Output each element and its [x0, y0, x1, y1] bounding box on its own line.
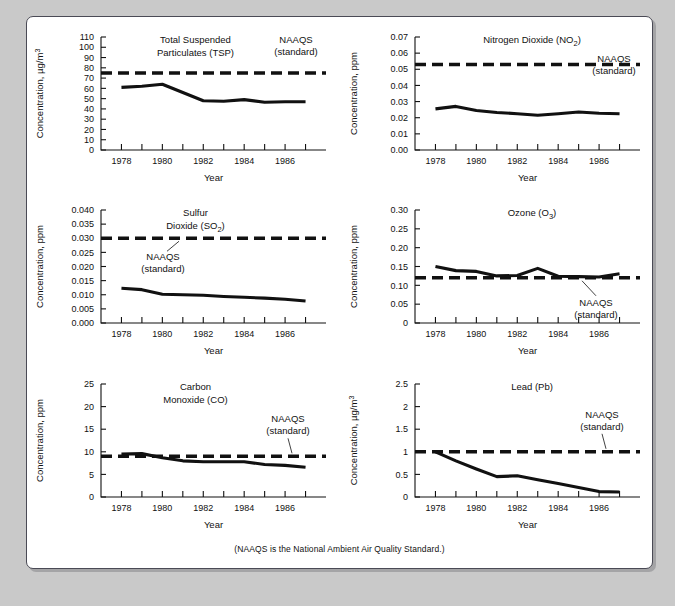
x-axis-title: Year — [204, 519, 223, 530]
data-line-tsp — [121, 84, 305, 102]
x-axis-title: Year — [517, 519, 536, 530]
panel-title: Dioxide (SO2) — [166, 220, 225, 234]
panel-title: Total Suspended — [160, 34, 231, 45]
x-tick-label: 1986 — [275, 156, 295, 166]
x-tick-label: 1982 — [193, 503, 213, 513]
chart-panel-co: 051015202519781980198219841986YearConcen… — [27, 368, 341, 541]
y-tick-label: 1 — [402, 447, 407, 457]
y-tick-label: 0.00 — [390, 145, 408, 155]
y-tick-label: 90 — [84, 53, 94, 63]
y-axis-title: Concentration, µg/m3 — [347, 395, 359, 485]
panel-title: Sulfur — [183, 207, 208, 218]
y-tick-label: 2.5 — [395, 379, 408, 389]
chart-panel-so2: 0.0000.0050.0100.0150.0200.0250.0300.035… — [27, 194, 341, 367]
x-tick-label: 1978 — [425, 329, 445, 339]
x-tick-label: 1984 — [234, 329, 254, 339]
chart-panel-lead: 00.511.522.519781980198219841986YearConc… — [341, 368, 655, 541]
y-axis-title: Concentration, ppm — [348, 52, 359, 135]
naaqs-leader-line — [167, 242, 179, 252]
y-tick-label: 40 — [84, 104, 94, 114]
y-tick-label: 10 — [84, 447, 94, 457]
y-axis-title: Concentration, ppm — [348, 225, 359, 308]
y-tick-label: 2 — [402, 401, 407, 411]
y-tick-label: 1.5 — [395, 424, 408, 434]
x-tick-label: 1986 — [589, 329, 609, 339]
panel-title: Carbon — [180, 381, 211, 392]
naaqs-label: NAAQS — [271, 413, 304, 424]
data-line-no2 — [435, 106, 619, 115]
y-tick-label: 0.06 — [390, 48, 408, 58]
x-tick-label: 1980 — [152, 503, 172, 513]
y-tick-label: 80 — [84, 63, 94, 73]
naaqs-label-sub: (standard) — [592, 65, 635, 76]
y-tick-label: 0.30 — [390, 206, 408, 216]
x-tick-label: 1984 — [234, 156, 254, 166]
x-tick-label: 1984 — [548, 503, 568, 513]
y-tick-label: 0.005 — [71, 304, 94, 314]
naaqs-label: NAAQS — [585, 408, 618, 419]
x-tick-label: 1980 — [466, 503, 486, 513]
y-tick-label: 70 — [84, 73, 94, 83]
chart-panel-no2: 0.000.010.020.030.040.050.060.0719781980… — [341, 21, 655, 194]
y-tick-label: 30 — [84, 114, 94, 124]
y-tick-label: 20 — [84, 125, 94, 135]
y-tick-label: 0.03 — [390, 97, 408, 107]
y-axis-title: Concentration, µg/m3 — [34, 49, 46, 139]
axis-lines — [415, 384, 640, 497]
y-tick-label: 0 — [89, 145, 94, 155]
y-tick-label: 0.020 — [71, 262, 94, 272]
naaqs-label-sub: (standard) — [580, 420, 623, 431]
figure-footnote: (NAAQS is the National Ambient Air Quali… — [27, 544, 652, 554]
figure-frame: 0102030405060708090100110197819801982198… — [26, 16, 653, 569]
y-tick-label: 0.05 — [390, 64, 408, 74]
naaqs-label-sub: (standard) — [266, 425, 309, 436]
x-tick-label: 1986 — [275, 329, 295, 339]
x-tick-label: 1986 — [589, 156, 609, 166]
naaqs-label: NAAQS — [597, 53, 630, 64]
y-tick-label: 0.035 — [71, 220, 94, 230]
x-axis-title: Year — [517, 172, 536, 183]
y-tick-label: 60 — [84, 84, 94, 94]
naaqs-leader-line — [288, 438, 292, 453]
x-tick-label: 1982 — [193, 156, 213, 166]
x-tick-label: 1978 — [111, 329, 131, 339]
x-axis-title: Year — [517, 345, 536, 356]
x-tick-label: 1982 — [507, 503, 527, 513]
x-tick-label: 1984 — [234, 503, 254, 513]
y-tick-label: 15 — [84, 424, 94, 434]
naaqs-leader-line — [602, 433, 606, 448]
x-tick-label: 1978 — [425, 503, 445, 513]
y-tick-label: 10 — [84, 135, 94, 145]
panel-title: Nitrogen Dioxide (NO2) — [483, 34, 581, 48]
naaqs-leader-line — [582, 281, 596, 296]
naaqs-label-sub: (standard) — [274, 46, 317, 57]
panel-title: Monoxide (CO) — [163, 394, 227, 405]
naaqs-label: NAAQS — [279, 34, 312, 45]
x-axis-title: Year — [204, 172, 223, 183]
panel-title: Lead (Pb) — [511, 381, 553, 392]
chart-panel-tsp: 0102030405060708090100110197819801982198… — [27, 21, 341, 194]
y-tick-label: 0 — [402, 492, 407, 502]
panel-title: Ozone (O3) — [507, 207, 556, 221]
x-tick-label: 1984 — [548, 329, 568, 339]
naaqs-label-sub: (standard) — [574, 309, 617, 320]
x-tick-label: 1980 — [466, 156, 486, 166]
y-tick-label: 20 — [84, 401, 94, 411]
y-axis-title: Concentration, ppm — [34, 399, 45, 482]
naaqs-label: NAAQS — [579, 297, 612, 308]
y-tick-label: 0.15 — [390, 262, 408, 272]
y-tick-label: 0.5 — [395, 469, 408, 479]
y-tick-label: 5 — [89, 469, 94, 479]
panel-grid: 0102030405060708090100110197819801982198… — [27, 21, 654, 541]
y-tick-label: 0.025 — [71, 248, 94, 258]
x-tick-label: 1980 — [466, 329, 486, 339]
y-tick-label: 0.010 — [71, 290, 94, 300]
y-tick-label: 0.01 — [390, 129, 408, 139]
x-axis-title: Year — [204, 345, 223, 356]
x-tick-label: 1986 — [589, 503, 609, 513]
y-tick-label: 0.05 — [390, 300, 408, 310]
y-tick-label: 0.20 — [390, 243, 408, 253]
x-tick-label: 1982 — [193, 329, 213, 339]
x-tick-label: 1982 — [507, 156, 527, 166]
y-tick-label: 25 — [84, 379, 94, 389]
